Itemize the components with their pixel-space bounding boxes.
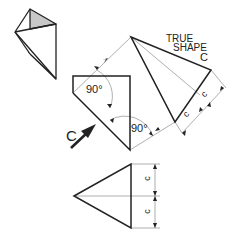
angle-label-plan: 90° bbox=[86, 84, 103, 95]
dimension-label-elevation-upper: c bbox=[143, 176, 152, 181]
dimension-arrows bbox=[94, 58, 224, 228]
technical-drawing bbox=[0, 0, 234, 237]
view-direction-label: C bbox=[66, 128, 77, 143]
dimension-label-elevation-lower: c bbox=[143, 209, 152, 214]
projection-lines bbox=[73, 37, 226, 228]
angle-label-edge: 90° bbox=[131, 123, 148, 134]
pictorial-view bbox=[15, 9, 56, 79]
true-shape-label-line3: C bbox=[200, 52, 208, 63]
